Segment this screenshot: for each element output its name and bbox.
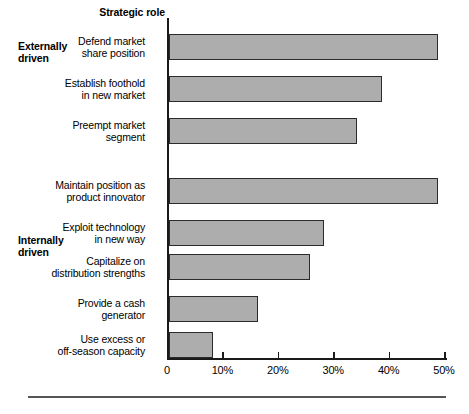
axis-tick-label: 10% <box>212 364 233 376</box>
footer-note <box>28 402 458 412</box>
bar <box>169 254 310 280</box>
axis-tick-label: 40% <box>378 364 399 376</box>
bar <box>169 178 438 204</box>
axis-tick <box>444 352 446 360</box>
category-label: Maintain position as product innovator <box>0 179 145 204</box>
bar <box>169 76 382 102</box>
bar <box>169 220 324 246</box>
footer-divider <box>28 396 446 398</box>
category-label: Establish foothold in new market <box>0 77 145 102</box>
axis-tick-label: 0 <box>164 364 170 376</box>
bar <box>169 296 258 322</box>
category-label: Use excess or off-season capacity <box>0 333 145 358</box>
value-axis-line <box>167 358 447 360</box>
bar <box>169 332 213 358</box>
axis-tick-label: 20% <box>267 364 288 376</box>
category-label: Preempt market segment <box>0 119 145 144</box>
axis-tick <box>278 352 280 360</box>
category-label: Defend market share position <box>0 35 145 60</box>
axis-tick <box>389 352 391 360</box>
plot-area: Defend market share positionEstablish fo… <box>167 18 451 358</box>
category-label: Capitalize on distribution strengths <box>0 255 145 280</box>
axis-tick-label: 50% <box>433 364 454 376</box>
bar <box>169 34 438 60</box>
category-label: Provide a cash generator <box>0 297 145 322</box>
axis-tick <box>333 352 335 360</box>
bar-chart: Strategic role Externally driven Interna… <box>0 0 469 414</box>
chart-title: Strategic role <box>99 6 165 18</box>
axis-tick-label: 30% <box>322 364 343 376</box>
bar <box>169 118 357 144</box>
category-label: Exploit technology in new way <box>0 221 145 246</box>
axis-tick <box>222 352 224 360</box>
